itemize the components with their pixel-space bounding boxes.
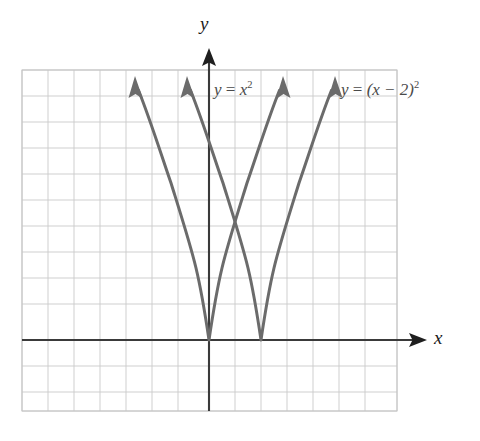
- curve-label-1-exponent: 2: [247, 79, 252, 90]
- curve-label-x-minus-2-squared: y = (x − 2)2: [341, 80, 419, 98]
- curve-label-2-rhs: (x − 2): [367, 80, 414, 99]
- curve-label-x-squared: y = x2: [214, 80, 252, 98]
- curve-label-1-lhs: y: [214, 80, 222, 99]
- curve-label-2-lhs: y: [341, 80, 349, 99]
- parabola-graph-figure: [0, 0, 480, 441]
- curve-label-1-equals: =: [226, 80, 236, 99]
- x-axis-label: x: [434, 328, 442, 347]
- curve-label-2-exponent: 2: [414, 79, 419, 90]
- figure-background: [0, 0, 480, 441]
- y-axis-label: y: [200, 14, 208, 33]
- curve-label-2-equals: =: [353, 80, 363, 99]
